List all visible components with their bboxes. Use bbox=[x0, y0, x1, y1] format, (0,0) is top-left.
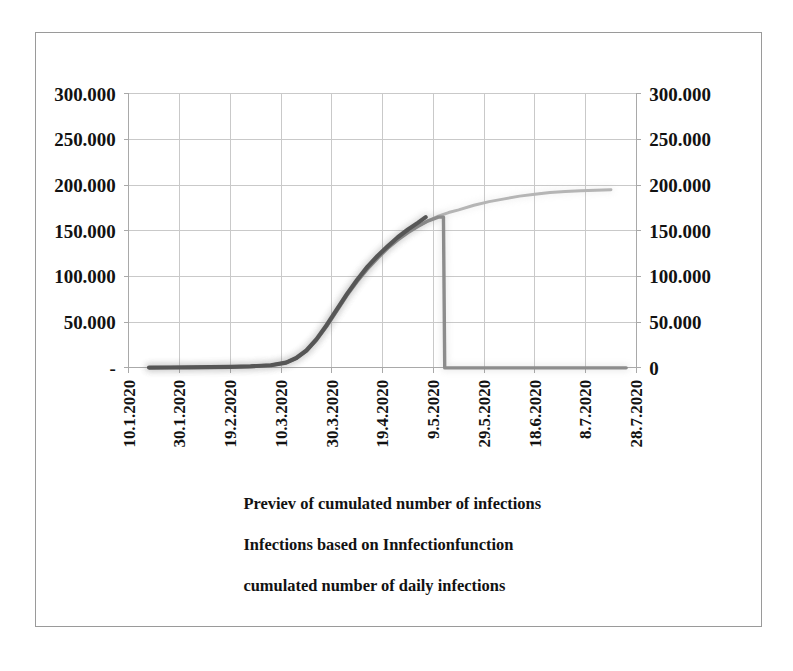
x-axis-tick-label: 10.1.2020 bbox=[120, 380, 139, 448]
y-axis-left-tick-label: - bbox=[109, 358, 115, 379]
y-axis-left-tick-label: 100.000 bbox=[54, 266, 116, 287]
chart-canvas: -50.000100.000150.000200.000250.000300.0… bbox=[36, 33, 761, 626]
chart-figure: -50.000100.000150.000200.000250.000300.0… bbox=[35, 32, 762, 627]
x-axis-tick-label: 19.4.2020 bbox=[373, 380, 392, 448]
y-axis-right-tick-label: 250.000 bbox=[649, 129, 711, 150]
legend-label-1: Infections based on Innfectionfunction bbox=[243, 535, 513, 554]
y-axis-right-tick-label: 50.000 bbox=[649, 312, 701, 333]
x-axis-tick-label: 10.3.2020 bbox=[272, 380, 291, 448]
x-axis-labels: 10.1.202030.1.202019.2.202010.3.202030.3… bbox=[120, 380, 647, 448]
x-axis-tick-label: 30.1.2020 bbox=[170, 380, 189, 448]
y-axis-left-labels: -50.000100.000150.000200.000250.000300.0… bbox=[54, 84, 116, 379]
x-axis-tick-label: 9.5.2020 bbox=[424, 380, 443, 439]
series-layer bbox=[149, 190, 626, 368]
x-axis-tick-label: 28.7.2020 bbox=[627, 380, 646, 448]
y-axis-left-tick-label: 50.000 bbox=[64, 312, 116, 333]
y-axis-right-labels: 050.000100.000150.000200.000250.000300.0… bbox=[649, 84, 711, 379]
y-axis-right-tick-label: 0 bbox=[649, 358, 658, 379]
series-line-2 bbox=[149, 217, 426, 367]
series-line-0 bbox=[149, 190, 611, 368]
series-halo-2 bbox=[149, 217, 426, 367]
chart-legend: Previev of cumulated number of infection… bbox=[196, 494, 541, 595]
y-axis-right-tick-label: 100.000 bbox=[649, 266, 711, 287]
y-axis-right-tick-label: 150.000 bbox=[649, 221, 711, 242]
series-halo-0 bbox=[149, 190, 611, 368]
y-axis-left-tick-label: 250.000 bbox=[54, 129, 116, 150]
series-line-1 bbox=[149, 217, 626, 368]
x-axis-tick-label: 29.5.2020 bbox=[475, 380, 494, 448]
series-halo-1 bbox=[149, 217, 626, 368]
legend-label-2: cumulated number of daily infections bbox=[243, 576, 505, 595]
y-axis-right-tick-label: 200.000 bbox=[649, 175, 711, 196]
y-axis-right-tick-label: 300.000 bbox=[649, 84, 711, 105]
legend-label-0: Previev of cumulated number of infection… bbox=[243, 494, 541, 513]
x-axis-tick-label: 18.6.2020 bbox=[526, 380, 545, 448]
x-axis-tick-label: 30.3.2020 bbox=[323, 380, 342, 448]
grid-layer bbox=[129, 94, 637, 368]
y-axis-left-tick-label: 150.000 bbox=[54, 221, 116, 242]
y-axis-left-tick-label: 300.000 bbox=[54, 84, 116, 105]
y-axis-left-tick-label: 200.000 bbox=[54, 175, 116, 196]
x-axis-tick-label: 8.7.2020 bbox=[576, 380, 595, 439]
x-axis-tick-label: 19.2.2020 bbox=[221, 380, 240, 448]
